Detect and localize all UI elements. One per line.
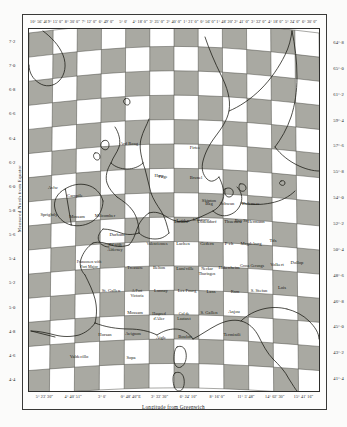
axis-tick-label: 0° 56' 0" [199, 19, 216, 24]
place-label: Lachen [176, 241, 190, 246]
axis-tick-label: 5° 24' 0" [284, 19, 301, 24]
checker-cell [273, 319, 298, 345]
axis-tick-label: 5·6 [9, 232, 15, 237]
place-label: Ram [231, 289, 240, 294]
axis-tick-label: 6·4 [9, 136, 15, 141]
map-graticule-svg: Ard RoagFirteeHarpFageBrunelAvlwCarnpile… [29, 29, 319, 391]
axis-tick-label: 48°·6 [333, 273, 344, 278]
place-label: Lannay [154, 288, 168, 293]
axis-tick-label: 4° 40' 51" [59, 394, 88, 399]
checker-cell [223, 121, 248, 147]
place-label: Franzosen withPort Major [77, 259, 102, 269]
axis-tick-label: 59°·4 [333, 118, 344, 123]
place-label: Carnpile [67, 193, 83, 198]
place-label: Gedern [200, 241, 214, 246]
place-label: Delemere [242, 201, 260, 206]
place-label: A FortVictoria [131, 288, 144, 298]
place-label: Horsan [98, 332, 112, 337]
checker-cell [199, 339, 224, 364]
checker-cell [247, 50, 271, 76]
axis-tick-label: 6·2 [9, 160, 15, 165]
axis-tick-label: 1° 21' 0" [182, 19, 199, 24]
checker-cell [174, 29, 198, 47]
place-label: Valdecillo [70, 354, 89, 359]
place-label: Durham [109, 232, 124, 237]
checker-cell [74, 366, 99, 391]
checker-cell [52, 149, 77, 176]
checker-cell [247, 147, 272, 173]
place-label: S. Gallen [200, 310, 218, 315]
place-label: Mossam [127, 310, 143, 315]
place-label: Hd withAlderney [108, 242, 123, 252]
checker-cell [248, 195, 273, 221]
place-label: Belton [153, 265, 166, 270]
place-label: NeckarThuringen [199, 266, 216, 276]
checker-cell [272, 222, 297, 248]
checker-cell [124, 315, 149, 340]
checker-cell [150, 46, 174, 71]
axis-tick-label: 46°·8 [333, 299, 344, 304]
axis-tick-label: 9° 15' 0" [47, 19, 64, 24]
axis-tick-label: 4° 18' 0" [267, 19, 284, 24]
axis-tick-label: 43°·2 [333, 350, 344, 355]
place-label: Anjou [228, 309, 240, 314]
axis-tick-label: 6° 49' 0" [98, 19, 115, 24]
checker-cell [100, 291, 125, 317]
checker-cell [29, 127, 52, 154]
place-label: Sprightly [40, 212, 58, 217]
checker-cell [298, 296, 319, 322]
axis-tick-label: 55°·8 [333, 169, 344, 174]
axis-tick-label: 6·0 [9, 184, 15, 189]
axis-tick-label: 6·6 [9, 111, 15, 116]
axis-tick-label: 64°·8 [333, 40, 344, 45]
map-plate: Ard RoagFirteeHarpFageBrunelAvlwCarnpile… [28, 28, 320, 392]
checker-cell [51, 246, 76, 272]
checker-cell [75, 317, 100, 343]
axis-tick-label: 2° 40' 0" [166, 19, 183, 24]
axis-tick-label: 6° 30' 0" [301, 19, 318, 24]
checker-cell [75, 268, 100, 294]
checker-cell [296, 103, 319, 130]
axis-tick-label: 4·6 [9, 353, 15, 358]
axis-tick-label: 45°·0 [333, 324, 344, 329]
axis-tick-label: 5° 23' 30" [30, 394, 59, 399]
checker-cell [150, 144, 174, 169]
checker-cell [297, 200, 319, 227]
axis-tick-label: 5° 0' [115, 19, 132, 24]
checker-cell [271, 76, 296, 103]
checker-cell [124, 364, 149, 389]
checker-cell [101, 48, 125, 74]
axis-tick-label: 7·2 [9, 39, 15, 44]
axis-tick-label: 50°·4 [333, 247, 344, 252]
axis-tick-label: 8° 16' 0" [203, 394, 232, 399]
axis-tick-label: 7·0 [9, 63, 15, 68]
place-label: St. Gallen [102, 288, 121, 293]
axis-tick-label: 4° 18' 0" [132, 19, 149, 24]
axis-tick-label: 3° 32' 0" [250, 19, 267, 24]
longitude-axis-caption: Longitude from Greenwich [0, 404, 347, 410]
checker-cell [223, 72, 247, 98]
place-label: Tds [270, 238, 277, 243]
checker-cell [224, 364, 249, 389]
axis-tick-label: 54°·0 [333, 195, 344, 200]
checker-cell [29, 224, 51, 250]
checker-cell [174, 120, 198, 145]
axis-tick-label: 6° 24' 10" [174, 394, 203, 399]
checker-cell [295, 54, 319, 81]
axis-tick-label: 41°·4 [333, 376, 344, 381]
axis-tick-label: 7° 12' 0" [81, 19, 98, 24]
place-label: Aigle [156, 335, 166, 340]
axis-tick-label: 5·8 [9, 208, 15, 213]
place-label: Fage [159, 174, 168, 179]
checker-cell [223, 170, 248, 196]
checker-cell [52, 100, 77, 127]
place-label: Magdeburg [240, 241, 262, 246]
place-label: Valenciennes [146, 241, 168, 246]
checker-cell [224, 316, 249, 342]
axis-tick-label: 8° 30' 0" [64, 19, 81, 24]
checker-cell [125, 71, 149, 96]
checker-cell [174, 71, 198, 96]
place-label: Milcomber [95, 213, 116, 218]
place-label: Firtee [190, 145, 201, 150]
axis-tick-label: 3° 33' 30" [145, 394, 174, 399]
